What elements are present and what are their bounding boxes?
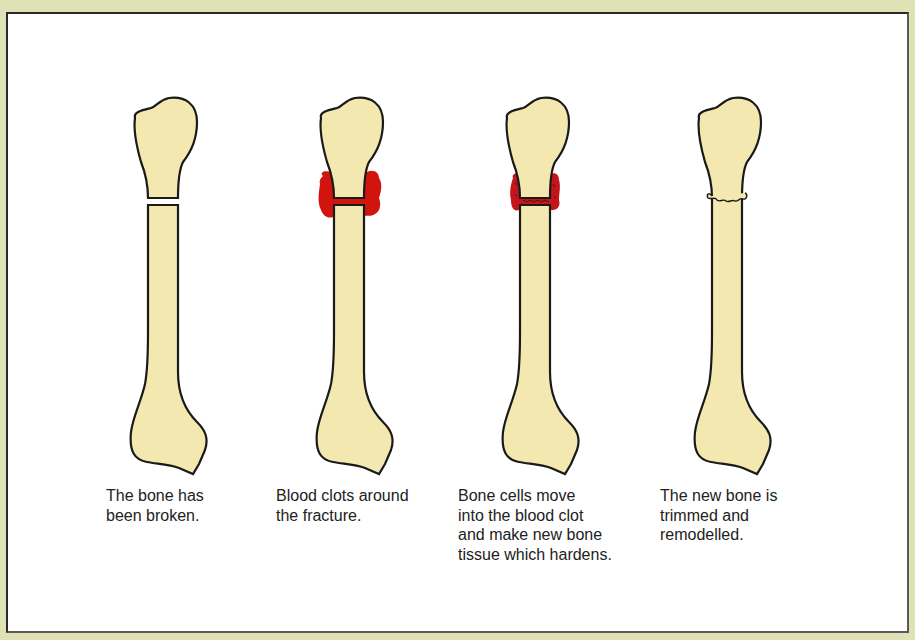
bone-broken: [131, 98, 207, 474]
caption-broken: The bone has been broken.: [106, 486, 204, 525]
caption-new-tissue: Bone cells move into the blood clot and …: [458, 486, 612, 564]
bone-remodelled: [695, 98, 771, 474]
caption-blood-clot: Blood clots around the fracture.: [276, 486, 409, 525]
bone-new-tissue: [503, 98, 579, 474]
bone-blood-clot: [317, 98, 393, 474]
caption-remodelled: The new bone is trimmed and remodelled.: [660, 486, 777, 545]
